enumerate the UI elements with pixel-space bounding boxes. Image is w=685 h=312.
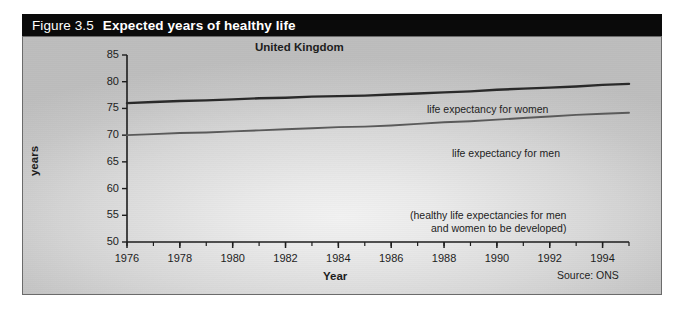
chart-panel: United Kingdom years Year life expectanc… (22, 36, 662, 295)
y-tick-label: 65 (87, 155, 119, 167)
y-tick-label: 75 (87, 101, 119, 113)
y-tick-label: 50 (87, 235, 119, 247)
x-tick-label: 1982 (262, 252, 310, 264)
y-tick-label: 80 (87, 75, 119, 87)
figure-title-bar: Figure 3.5 Expected years of healthy lif… (22, 14, 662, 36)
y-tick-label: 60 (87, 182, 119, 194)
series-line-men (127, 113, 629, 135)
x-tick-label: 1980 (209, 252, 257, 264)
figure-number: Figure 3.5 (32, 18, 94, 33)
x-tick-label: 1992 (526, 252, 574, 264)
y-tick-label: 85 (87, 48, 119, 60)
data-series-layer (127, 84, 629, 135)
x-tick-label: 1976 (103, 252, 151, 264)
series-line-women (127, 84, 629, 103)
x-tick-label: 1978 (156, 252, 204, 264)
x-tick-label: 1984 (314, 252, 362, 264)
figure-container: Figure 3.5 Expected years of healthy lif… (22, 14, 662, 295)
y-tick-label: 70 (87, 128, 119, 140)
axes (122, 55, 629, 248)
x-tick-label: 1994 (579, 252, 627, 264)
x-tick-label: 1988 (420, 252, 468, 264)
x-tick-label: 1986 (367, 252, 415, 264)
y-tick-label: 55 (87, 208, 119, 220)
x-tick-label: 1990 (473, 252, 521, 264)
figure-title: Expected years of healthy life (103, 18, 296, 33)
